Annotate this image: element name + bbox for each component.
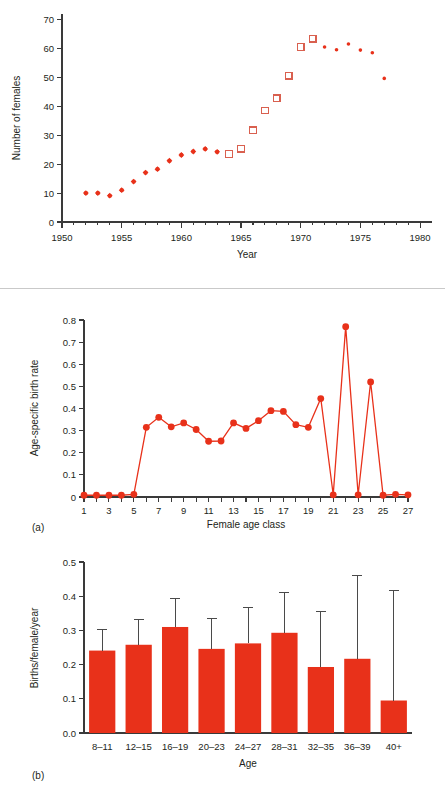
x-tick-label: 12–15 — [125, 741, 151, 752]
data-point-open-square — [238, 145, 245, 152]
bar — [126, 645, 152, 733]
y-tick-group: 010203040506070 — [43, 14, 62, 227]
data-point-open-square — [285, 73, 292, 80]
x-tick-label: 8–11 — [92, 741, 112, 752]
y-tick-label: 0.2 — [63, 659, 76, 670]
y-tick-label: 40 — [43, 101, 54, 112]
y-axis-title: Number of females — [11, 76, 22, 160]
data-point-circle — [93, 492, 100, 499]
x-axis-title: Year — [237, 249, 258, 260]
x-tick-label: 3 — [106, 505, 111, 516]
x-tick-label: 17 — [278, 505, 289, 516]
x-tick-label: 21 — [328, 505, 339, 516]
y-axis-title: Age-specific birth rate — [29, 359, 40, 456]
data-point-diamond-core — [132, 180, 135, 183]
data-point-circle — [367, 379, 374, 386]
chart-age-specific-birth-rate: 00.10.20.30.40.50.60.70.8 13579111315171… — [0, 292, 445, 542]
data-point-circle — [355, 491, 362, 498]
data-point-circle — [230, 419, 237, 426]
y-tick-label: 70 — [43, 14, 54, 25]
x-tick-label: 24–27 — [235, 741, 261, 752]
panel-label-a: (a) — [32, 522, 44, 533]
data-point-diamond-core — [84, 191, 87, 194]
x-tick-label: 32–35 — [308, 741, 334, 752]
data-point-circle — [143, 424, 150, 431]
x-tick-label: 1970 — [290, 232, 311, 243]
data-point-dot — [382, 77, 386, 81]
data-point-circle — [280, 408, 287, 415]
data-point-circle — [243, 425, 250, 432]
x-tick-label: 1980 — [409, 232, 430, 243]
x-axis-title: Female age class — [207, 519, 285, 530]
y-tick-group: 00.10.20.30.40.50.60.70.8 — [63, 315, 84, 503]
y-tick-label: 10 — [43, 188, 54, 199]
data-point-open-square — [309, 35, 316, 42]
x-tick-label: 27 — [403, 505, 414, 516]
x-axis-title: Age — [239, 758, 257, 769]
x-tick-label: 1960 — [171, 232, 192, 243]
birth-rate-svg: 00.10.20.30.40.50.60.70.8 13579111315171… — [0, 292, 445, 542]
data-point-circle — [168, 423, 175, 430]
data-point-dot — [371, 51, 375, 55]
x-tick-label: 19 — [303, 505, 314, 516]
bar — [235, 643, 261, 733]
x-tick-label: 15 — [253, 505, 264, 516]
chart-population-trend: 010203040506070 195019551960196519701975… — [0, 0, 445, 288]
data-point-open-square — [297, 44, 304, 51]
x-tick-label: 36–39 — [344, 741, 370, 752]
x-tick-label: 9 — [181, 505, 186, 516]
y-tick-label: 0.2 — [63, 447, 76, 458]
y-tick-label: 0.7 — [63, 337, 76, 348]
y-tick-label: 0 — [49, 217, 54, 228]
data-point-circle — [305, 424, 312, 431]
data-point-circle — [292, 421, 299, 428]
bar — [198, 649, 224, 733]
x-tick-label: 11 — [204, 505, 214, 516]
data-point-circle — [255, 417, 262, 424]
y-tick-label: 20 — [43, 159, 54, 170]
data-point-circle — [180, 419, 187, 426]
x-tick-label: 40+ — [386, 741, 403, 752]
data-point-diamond-core — [96, 191, 99, 194]
data-point-diamond-core — [108, 194, 111, 197]
data-point-diamond-core — [144, 171, 147, 174]
bar — [89, 651, 115, 733]
data-point-diamond-core — [204, 147, 207, 150]
birth-rate-line — [84, 327, 408, 496]
y-tick-label: 30 — [43, 130, 54, 141]
data-point-dot — [359, 48, 363, 52]
data-point-diamond-core — [192, 150, 195, 153]
y-tick-label: 0.1 — [63, 693, 76, 704]
data-point-circle — [205, 438, 212, 445]
y-tick-label: 0.4 — [63, 591, 76, 602]
y-tick-label: 0.5 — [63, 381, 76, 392]
data-point-open-square — [274, 95, 281, 102]
x-tick-label: 1975 — [350, 232, 371, 243]
y-tick-label: 0.1 — [63, 469, 76, 480]
x-tick-group: 1950195519601965197019751980 — [51, 222, 430, 243]
x-tick-label: 1965 — [230, 232, 251, 243]
y-axis-title: Births/female/year — [29, 607, 40, 688]
data-point-diamond-core — [168, 159, 171, 162]
x-tick-label: 16–19 — [162, 741, 188, 752]
y-tick-group: 0.00.10.20.30.40.5 — [63, 557, 84, 739]
chart-births-per-female: 0.00.10.20.30.40.5 8–1112–1516–1920–2324… — [0, 548, 445, 789]
bar — [344, 659, 370, 733]
data-point-diamond-core — [215, 150, 218, 153]
x-tick-label-group: 8–1112–1516–1920–2324–2728–3132–3536–394… — [92, 741, 402, 752]
x-tick-label: 23 — [353, 505, 364, 516]
y-tick-label: 60 — [43, 43, 54, 54]
data-point-circle — [268, 407, 275, 414]
x-tick-label: 1950 — [51, 232, 72, 243]
x-tick-label: 20–23 — [198, 741, 224, 752]
data-point-dot — [323, 45, 327, 49]
data-point-circle — [118, 492, 125, 499]
x-tick-label: 5 — [131, 505, 136, 516]
data-point-circle — [317, 395, 324, 402]
bar — [308, 667, 334, 733]
data-points-group — [83, 35, 386, 198]
data-point-circle — [81, 492, 88, 499]
births-bar-svg: 0.00.10.20.30.40.5 8–1112–1516–1920–2324… — [0, 548, 445, 789]
y-tick-label: 0.6 — [63, 359, 76, 370]
x-tick-label: 25 — [378, 505, 389, 516]
